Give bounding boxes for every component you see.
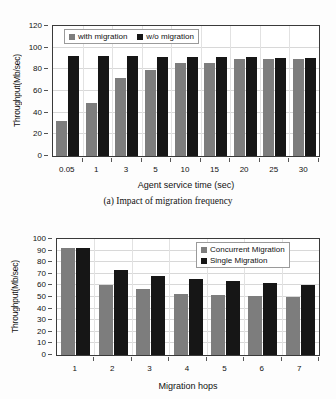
chart-a-y-tick-6: 120 bbox=[29, 21, 42, 30]
chart-b-y-axis-label: Throughput(Mb/sec) bbox=[10, 239, 20, 355]
chart-a-legend-item-0: with migration bbox=[69, 32, 127, 41]
legend-swatch-icon bbox=[137, 34, 143, 40]
y-tick-mark bbox=[44, 25, 48, 26]
chart-b-x-tick-0: 1 bbox=[72, 364, 76, 373]
y-tick-mark bbox=[48, 261, 52, 262]
bar-b-1-0 bbox=[99, 285, 113, 355]
chart-a-x-tick-2: 3 bbox=[124, 165, 128, 174]
bar-a-3-0 bbox=[145, 70, 156, 156]
chart-a-legend-label-1: w/o migration bbox=[146, 32, 194, 41]
chart-a-y-tick-3: 60 bbox=[33, 86, 42, 95]
chart-a-x-axis: 0.051351015202530 bbox=[52, 158, 320, 198]
chart-b-y-tick-0: 0 bbox=[42, 350, 46, 359]
chart-b-migration-hops: 0102030405060708090100 Throughput(Mb/sec… bbox=[0, 225, 336, 399]
chart-a-y-axis-label: Throughput(Mb/sec) bbox=[12, 28, 22, 154]
bar-b-6-1 bbox=[301, 285, 315, 355]
bar-a-1-0 bbox=[86, 103, 97, 156]
bar-b-4-0 bbox=[211, 295, 225, 355]
x-tick-mark bbox=[229, 158, 230, 162]
y-tick-mark bbox=[48, 284, 52, 285]
gridline bbox=[260, 26, 261, 156]
y-tick-mark bbox=[44, 68, 48, 69]
bar-b-3-0 bbox=[174, 294, 188, 355]
chart-b-y-tick-8: 80 bbox=[37, 257, 46, 266]
chart-b-y-tick-4: 40 bbox=[37, 303, 46, 312]
chart-a-y-tick-2: 40 bbox=[33, 107, 42, 116]
chart-a-x-tick-0: 0.05 bbox=[59, 165, 75, 174]
chart-b-legend-item-1: Single Migration bbox=[201, 256, 267, 265]
x-tick-mark bbox=[170, 158, 171, 162]
chart-b-y-tick-1: 10 bbox=[37, 338, 46, 347]
chart-b-x-tick-5: 6 bbox=[260, 364, 264, 373]
y-tick-mark bbox=[48, 354, 52, 355]
legend-swatch-icon bbox=[201, 258, 207, 264]
chart-a-x-tick-6: 20 bbox=[240, 165, 249, 174]
bar-a-8-0 bbox=[293, 59, 304, 156]
x-tick-mark bbox=[111, 158, 112, 162]
bar-a-4-0 bbox=[175, 63, 186, 156]
x-tick-mark bbox=[243, 357, 244, 361]
chart-a-legend: with migration w/o migration bbox=[64, 29, 199, 44]
chart-a-x-tick-1: 1 bbox=[94, 165, 98, 174]
bar-b-2-0 bbox=[136, 289, 150, 355]
legend-swatch-icon bbox=[201, 247, 207, 253]
y-tick-mark bbox=[44, 47, 48, 48]
y-tick-mark bbox=[48, 296, 52, 297]
bar-a-0-0 bbox=[56, 121, 67, 156]
chart-a-x-tick-8: 30 bbox=[299, 165, 308, 174]
chart-b-x-axis: 1234567 bbox=[56, 357, 320, 399]
chart-a-y-tick-0: 0 bbox=[38, 151, 42, 160]
y-tick-mark bbox=[48, 308, 52, 309]
bar-a-0-1 bbox=[68, 56, 79, 156]
bar-b-6-0 bbox=[286, 297, 300, 355]
chart-b-y-tick-3: 30 bbox=[37, 315, 46, 324]
chart-b-legend-label-0: Concurrent Migration bbox=[210, 245, 285, 254]
gridline bbox=[94, 239, 95, 355]
chart-a-x-axis-label: Agent service time (sec) bbox=[52, 180, 320, 190]
y-tick-mark bbox=[44, 155, 48, 156]
bar-a-6-1 bbox=[246, 57, 257, 156]
gridline bbox=[132, 239, 133, 355]
chart-a-y-tick-5: 100 bbox=[29, 42, 42, 51]
chart-a-x-tick-7: 25 bbox=[269, 165, 278, 174]
gridline bbox=[53, 25, 319, 26]
gridline bbox=[171, 26, 172, 156]
bar-b-0-1 bbox=[76, 248, 90, 355]
bar-a-1-1 bbox=[98, 56, 109, 156]
bar-b-1-1 bbox=[114, 270, 128, 355]
chart-b-y-tick-6: 60 bbox=[37, 280, 46, 289]
chart-b-y-tick-5: 50 bbox=[37, 292, 46, 301]
chart-b-x-axis-label: Migration hops bbox=[56, 381, 320, 391]
bar-b-3-1 bbox=[189, 279, 203, 355]
y-tick-mark bbox=[48, 250, 52, 251]
x-tick-mark bbox=[259, 158, 260, 162]
bar-a-7-1 bbox=[275, 58, 286, 156]
chart-b-y-axis: 0102030405060708090100 bbox=[0, 238, 52, 356]
y-tick-mark bbox=[48, 319, 52, 320]
gridline bbox=[83, 26, 84, 156]
chart-a-caption: (a) Impact of migration frequency bbox=[0, 196, 336, 206]
chart-a-x-tick-4: 10 bbox=[181, 165, 190, 174]
chart-a-y-axis: 020406080100120 bbox=[0, 25, 48, 157]
chart-a-y-tick-1: 20 bbox=[33, 129, 42, 138]
gridline bbox=[112, 26, 113, 156]
bar-b-5-0 bbox=[248, 296, 262, 355]
legend-swatch-icon bbox=[69, 34, 75, 40]
figure-page: 020406080100120 Throughput(Mb/sec) 0.051… bbox=[0, 0, 336, 399]
gridline bbox=[53, 47, 319, 48]
bar-a-3-1 bbox=[157, 57, 168, 156]
y-tick-mark bbox=[44, 112, 48, 113]
chart-b-y-tick-7: 70 bbox=[37, 268, 46, 277]
chart-b-y-tick-2: 20 bbox=[37, 326, 46, 335]
gridline bbox=[289, 26, 290, 156]
chart-b-x-tick-2: 3 bbox=[147, 364, 151, 373]
chart-a-legend-item-1: w/o migration bbox=[137, 32, 194, 41]
x-tick-mark bbox=[93, 357, 94, 361]
bar-a-6-0 bbox=[234, 59, 245, 156]
gridline bbox=[169, 239, 170, 355]
bar-a-5-1 bbox=[216, 57, 227, 156]
bar-a-7-0 bbox=[263, 59, 274, 156]
chart-b-legend: Concurrent Migration Single Migration bbox=[196, 242, 290, 268]
x-tick-mark bbox=[288, 158, 289, 162]
y-tick-mark bbox=[48, 342, 52, 343]
